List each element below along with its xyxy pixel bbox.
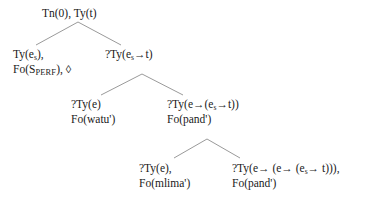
branch-predicate-to-object	[101, 74, 142, 95]
tree-node-object: ?Ty(e) Fo(watu')	[71, 97, 115, 126]
subject-subscript-perf: PERF	[35, 67, 56, 76]
object2-label-line1: ?Ty(e),	[139, 161, 190, 176]
verbphrase-label-line1: ?Ty(e→(es→t))	[167, 97, 239, 112]
branch-root-to-subject	[36, 22, 78, 45]
branch-predicate-to-verbphr	[142, 74, 183, 95]
tree-node-predicate: ?Ty(es→t)	[105, 47, 153, 62]
branch-root-to-predicate	[78, 22, 121, 45]
right-arrow-icon: →	[308, 162, 320, 174]
predicate-label-line1: ?Ty(es→t)	[105, 47, 153, 62]
parse-tree-figure: Tn(0), Ty(t) Ty(es), Fo(SPERF), ◊ ?Ty(es…	[0, 0, 372, 206]
object-label-line2: Fo(watu')	[71, 112, 115, 127]
tree-node-verb2: ?Ty(e→ (e→ (es→ t))), Fo(pand')	[232, 161, 340, 190]
tree-node-subject: Ty(es), Fo(SPERF), ◊	[13, 47, 71, 76]
branch-verbphr-to-object2	[174, 139, 207, 158]
verbphrase-label-line2: Fo(pand')	[167, 112, 239, 127]
root-label-line1: Tn(0), Ty(t)	[42, 6, 97, 21]
right-arrow-icon: →	[281, 162, 293, 174]
object2-label-line2: Fo(mlima')	[139, 176, 190, 191]
subject-label-line2: Fo(SPERF), ◊	[13, 62, 71, 77]
tree-node-root: Tn(0), Ty(t)	[42, 6, 97, 21]
right-arrow-icon: →	[193, 98, 205, 110]
verb2-label-line2: Fo(pand')	[232, 176, 340, 191]
right-arrow-icon: →	[134, 48, 146, 60]
object-label-line1: ?Ty(e)	[71, 97, 115, 112]
diamond-modality-icon: ◊	[66, 63, 71, 75]
tree-node-verbphrase: ?Ty(e→(es→t)) Fo(pand')	[167, 97, 239, 126]
tree-node-object2: ?Ty(e), Fo(mlima')	[139, 161, 190, 190]
right-arrow-icon: →	[216, 98, 228, 110]
branch-verbphr-to-verb2	[207, 139, 240, 158]
subject-label-line1: Ty(es),	[13, 47, 71, 62]
verb2-label-line1: ?Ty(e→ (e→ (es→ t))),	[232, 161, 340, 176]
right-arrow-icon: →	[258, 162, 270, 174]
